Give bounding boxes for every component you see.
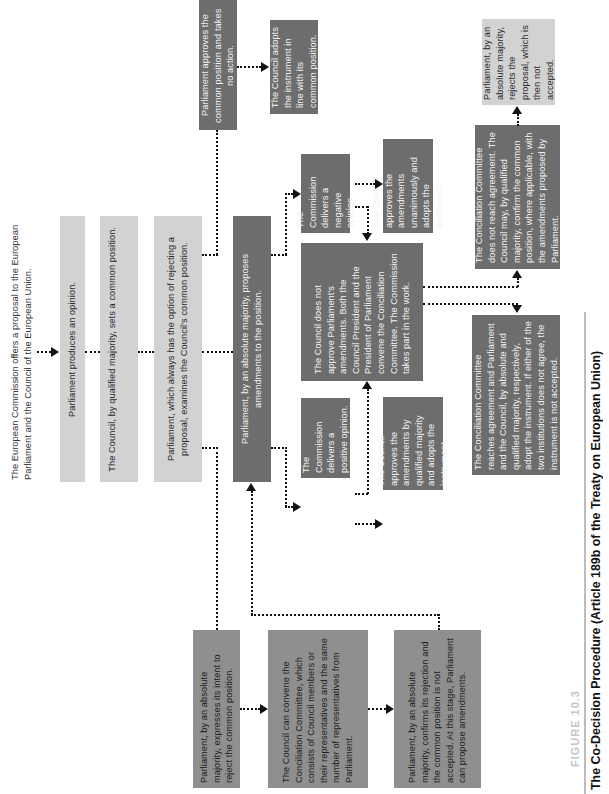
connector-confirms-up [438,614,440,630]
connector-examines-to-proposes [202,351,233,353]
arrow-up-icon [512,106,522,114]
arrow-up-icon [246,483,256,491]
box-text: Parliament approves the common position … [199,3,237,128]
arrow-up-icon [512,270,522,278]
box-council-qualified: The Council approves the amendments by q… [383,397,443,490]
box-parliament-intent-reject: Parliament, by an absolute majority, exp… [193,630,240,788]
box-conciliation-no-agreement: The Conciliation Committee does not reac… [475,125,560,269]
arrow-up-icon [362,381,372,389]
connector-noagreement-to-rejects [517,114,519,126]
box-parliament-confirms-rejection: Parliament, by an absolute majority, con… [394,630,481,788]
connector-to-negative-h [285,193,293,195]
arrow-down-icon [512,305,522,313]
connector-noagreement-v [517,278,519,287]
box-text: The Council can convene the Conciliation… [280,635,356,783]
box-text: Parliament, by an absolute majority, rej… [481,24,557,100]
box-parliament-examines: Parliament, which always has the option … [154,216,202,482]
box-text: The Council, by qualified majority, sets… [106,227,132,472]
connector-negative-to-notapprove-v [367,206,369,234]
box-text: Parliament, by an absolute majority, pro… [239,229,264,469]
connector-to-intent-reject [216,447,218,630]
arrow-right-icon [293,189,301,199]
connector-positive-to-notapprove-v [367,389,369,494]
box-text: The Commission delivers a positive opini… [300,403,350,473]
box-council-convene: The Council can convene the Conciliation… [268,630,368,788]
box-council-unanimous: The Council approves the amendments unan… [383,139,433,233]
connector-intent-to-convene [240,708,260,710]
arrow-right-icon [261,62,269,72]
box-text: The Council approves the amendments by q… [375,402,451,486]
arrow-right-icon [386,704,394,714]
box-text: Parliament, by an absolute majority, exp… [198,635,236,783]
box-council-not-approve: The Council does not approve Parliament'… [301,243,423,381]
connector-opinion-to-council [85,351,100,353]
arrow-right-icon [293,502,301,512]
box-text: The Commission delivers a negative opini… [294,160,357,228]
arrow-right-icon [375,519,383,529]
connector-to-positive [285,447,287,507]
arrow-right-icon [51,347,59,357]
connector-negative-to-unanimous [355,183,375,185]
figure-label: FIGURE 10.3 [569,690,581,767]
connector-to-positive-h [285,506,293,508]
box-commission-negative: The Commission delivers a negative opini… [301,154,350,233]
connector-council-to-examines [138,351,154,353]
connector-return-horizontal [251,614,439,616]
connector-approves-to-adopts [237,66,261,68]
connector-convene-to-confirms [368,708,386,710]
connector-notapprove-to-agreement [423,303,518,305]
connector-to-approves [216,130,218,255]
figure-title: The Co-Decision Procedure (Article 189b … [589,360,603,790]
connector-intro-to-opinion [37,351,51,353]
box-parliament-rejects: Parliament, by an absolute majority, rej… [482,19,555,105]
box-parliament-approves: Parliament approves the common position … [199,0,237,130]
connector-positive-to-qualified [355,523,375,525]
box-text: The Conciliation Committee reaches agree… [472,320,560,470]
box-text: Parliament produces an opinion. [66,282,79,417]
arrow-right-icon [260,704,268,714]
box-council-common-position: The Council, by qualified majority, sets… [100,216,138,482]
box-text: The Council does not approve Parliament'… [312,250,413,374]
arrow-down-icon [362,233,372,241]
box-commission-positive: The Commission delivers a positive opini… [301,398,350,478]
box-parliament-proposes-amendments: Parliament, by an absolute majority, pro… [233,216,271,482]
box-text: Parliament, which always has the option … [165,229,190,469]
box-text: The Conciliation Committee does not reac… [473,131,561,263]
caption-rule [584,312,586,794]
box-text: Parliament, by an absolute majority, con… [406,635,469,783]
connector-notapprove-to-noagreement [423,286,518,288]
arrow-right-icon [375,179,383,189]
box-text: The Council adopts the instrument in lin… [269,26,319,108]
box-parliament-opinion: Parliament produces an opinion. [60,216,85,482]
connector-return-vertical [251,491,253,615]
box-council-adopts-common: The Council adopts the instrument in lin… [270,20,318,114]
box-conciliation-agreement: The Conciliation Committee reaches agree… [472,315,560,475]
connector-to-negative [285,193,287,255]
